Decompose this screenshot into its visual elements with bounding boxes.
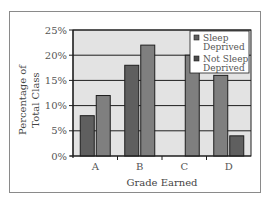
legend-swatch-not-sleep-deprived (194, 56, 199, 61)
legend-swatch-sleep-deprived (194, 35, 199, 40)
x-tick-label: A (91, 161, 100, 172)
bar-sleep-deprived-A (80, 116, 94, 156)
x-tick-label: C (180, 161, 188, 172)
y-axis-ticks: 0%5%10%15%20%25% (45, 25, 73, 162)
bar-sleep-deprived-D (230, 136, 244, 156)
legend: Sleep Deprived Not Sleep Deprived (190, 31, 249, 73)
bar-not-sleep-deprived-A (96, 96, 110, 156)
bar-not-sleep-deprived-D (214, 75, 228, 156)
bar-chart: 0%5%10%15%20%25% ABCD Grade Earned Perce… (0, 0, 273, 204)
bar-not-sleep-deprived-B (141, 45, 155, 156)
y-tick-label: 25% (45, 25, 67, 36)
x-axis-ticks: ABCD (91, 156, 233, 172)
legend-label-not-sleep-deprived-2: Deprived (203, 63, 245, 73)
x-tick-label: D (225, 161, 233, 172)
bar-sleep-deprived-B (125, 65, 139, 156)
y-tick-label: 0% (51, 151, 67, 162)
y-tick-label: 10% (45, 100, 67, 111)
y-tick-label: 20% (45, 50, 67, 61)
x-tick-label: B (136, 161, 143, 172)
x-axis-title: Grade Earned (126, 177, 198, 188)
y-axis-title-line2: Total Class (30, 72, 41, 127)
y-tick-label: 5% (51, 125, 67, 136)
y-axis-title-line1: Percentage of (17, 64, 28, 135)
legend-label-sleep-deprived-2: Deprived (203, 42, 245, 52)
y-tick-label: 15% (45, 75, 67, 86)
